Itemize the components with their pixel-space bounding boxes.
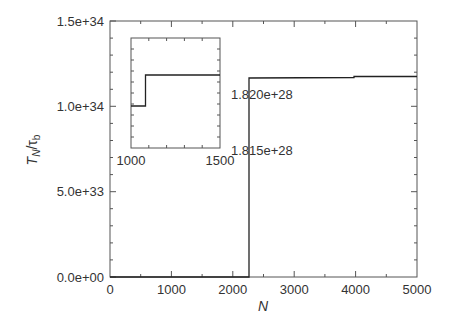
y-tick-label-0: 0.0e+00	[57, 270, 104, 285]
y-label-sub2: b	[31, 134, 42, 140]
x-tick-label-3: 3000	[280, 282, 309, 297]
y-tick-label-3: 1.5e+34	[57, 14, 104, 29]
x-tick-label-0: 0	[106, 282, 113, 297]
inset-plot: 1000 1500	[117, 38, 235, 168]
y-tick-label-1: 5.0e+33	[57, 184, 104, 199]
x-axis-label: N	[258, 298, 269, 314]
chart-canvas: 0.0e+00 5.0e+33 1.0e+34 1.5e+34 0 1000 2…	[0, 0, 454, 328]
inset-y-label-lower: 1.815e+28	[231, 143, 293, 158]
y-tick-label-2: 1.0e+34	[57, 99, 104, 114]
y-label-slash: /τ	[24, 140, 40, 150]
x-tick-label-2: 2000	[218, 282, 247, 297]
x-tick-label-4: 4000	[341, 282, 370, 297]
inset-frame	[131, 38, 220, 148]
inset-y-label-upper: 1.820e+28	[231, 87, 293, 102]
inset-x-tick-label-0: 1000	[117, 153, 146, 168]
svg-text:TN/τb: TN/τb	[24, 134, 42, 165]
x-tick-label-1: 1000	[157, 282, 186, 297]
y-axis-label: TN/τb	[24, 134, 42, 165]
x-tick-label-5: 5000	[403, 282, 432, 297]
